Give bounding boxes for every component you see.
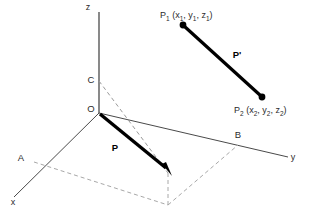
dashed-base-edge-foot-to-b (168, 145, 238, 205)
p1-endpoint-dot (180, 22, 187, 29)
point-label-a: A (18, 152, 25, 163)
p1-close-paren: ) (210, 10, 213, 20)
vector-label-p: P (112, 142, 119, 153)
displacement-vector-p-prime-segment (184, 26, 261, 96)
p2-close-paren: ) (284, 105, 287, 115)
p1-comma-2: , z (196, 10, 206, 20)
point-label-b: B (235, 129, 241, 140)
y-axis-label: y (291, 152, 296, 162)
three-axis-vector-figure: z x y C O A B P P' P1 (x1, y1, z1) P2 (x… (0, 0, 309, 210)
position-vector-p-shaft (100, 114, 166, 168)
p2-coordinate-label: P2 (x2, y2, z2) (234, 105, 287, 117)
vector-diagram-canvas: z x y C O A B P P' P1 (x1, y1, z1) P2 (x… (0, 0, 309, 210)
p1-open-paren: (x (170, 10, 180, 20)
x-axis-label: x (11, 197, 16, 207)
p1-coordinate-label: P1 (x1, y1, z1) (160, 10, 213, 22)
p1-comma-1: , y (183, 10, 193, 20)
point-label-c: C (88, 74, 95, 85)
z-axis-label: z (86, 2, 91, 12)
x-axis-line (14, 113, 99, 197)
p2-open-paren: (x (244, 105, 254, 115)
p2-comma-1: , y (257, 105, 267, 115)
p2-comma-2: , z (270, 105, 280, 115)
point-label-o: O (87, 103, 94, 114)
position-vector-p-arrowhead (162, 162, 172, 176)
p2-endpoint-dot (259, 94, 266, 101)
vector-label-p-prime: P' (233, 49, 242, 60)
dashed-base-edge-a-to-foot (34, 162, 168, 205)
